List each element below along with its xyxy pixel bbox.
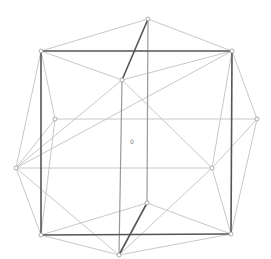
edge-I-L: [119, 203, 147, 255]
node-B: [39, 49, 43, 53]
node-K: [229, 232, 233, 236]
node-H: [210, 166, 214, 170]
node-A: [146, 17, 150, 21]
edge-H-K: [212, 168, 231, 234]
node-J: [39, 233, 43, 237]
edge-A-B: [41, 19, 148, 51]
node-D: [120, 78, 124, 82]
edge-H-L: [119, 168, 212, 255]
edge-E-J: [41, 119, 55, 235]
node-E: [53, 117, 57, 121]
edges-layer: [16, 19, 257, 255]
edge-B-E: [41, 51, 55, 119]
graph-diagram: [0, 0, 271, 259]
node-C: [230, 49, 234, 53]
edge-F-K: [231, 119, 257, 234]
edge-C-K: [231, 51, 232, 234]
edge-D-H: [122, 80, 212, 168]
edge-C-G: [16, 51, 232, 168]
edge-A-C: [148, 19, 232, 51]
node-F: [255, 117, 259, 121]
edge-K-L: [119, 234, 231, 255]
edge-C-D: [122, 51, 232, 80]
edge-A-I: [147, 19, 148, 203]
node-L: [117, 253, 121, 257]
edge-I-K: [147, 203, 231, 234]
edge-C-F: [232, 51, 257, 119]
edge-C-H: [212, 51, 232, 168]
node-I: [145, 201, 149, 205]
center-label: 0: [130, 138, 134, 145]
edge-E-G: [16, 119, 55, 168]
node-G: [14, 166, 18, 170]
edge-A-D: [122, 19, 148, 80]
edge-B-D: [41, 51, 122, 80]
edge-I-J: [41, 203, 147, 235]
edge-J-K: [41, 234, 231, 235]
